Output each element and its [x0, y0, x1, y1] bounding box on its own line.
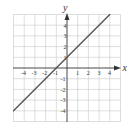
x-tick: -4: [21, 70, 26, 76]
coordinate-plane: x y -4 -3 -2 -1 1 2 3 4 4 3 2 1 -1 -2 -3…: [0, 0, 130, 126]
x-tick: 4: [108, 70, 111, 76]
y-tick: -4: [61, 108, 66, 114]
x-axis-arrow-icon: [114, 66, 121, 71]
y-tick: -3: [61, 97, 66, 103]
x-tick: 2: [87, 70, 90, 76]
x-tick: -2: [42, 70, 47, 76]
y-tick: 2: [64, 44, 67, 50]
x-axis-label: x: [122, 62, 128, 73]
y-tick: 3: [64, 33, 67, 39]
line-y-equals-x-plus-1: [14, 15, 110, 111]
x-tick: -3: [32, 70, 37, 76]
y-tick: 4: [64, 23, 67, 29]
y-axis-label: y: [62, 2, 68, 13]
y-tick: -2: [61, 87, 66, 93]
x-tick-labels: -4 -3 -2 -1 1 2 3 4: [21, 70, 111, 76]
x-tick: 3: [97, 70, 100, 76]
y-axis-arrow-icon: [65, 13, 70, 20]
y-tick: -1: [61, 76, 66, 82]
x-tick: 1: [76, 70, 79, 76]
